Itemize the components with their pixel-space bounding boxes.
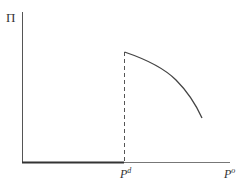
- y-axis-label: Π: [6, 10, 15, 26]
- x-tick-label-pd: Pd: [120, 166, 131, 182]
- profit-curve: [125, 52, 203, 118]
- po-sup: o: [231, 166, 235, 175]
- pd-sup: d: [127, 166, 131, 175]
- x-tick-label-po: Po: [224, 166, 235, 182]
- diagram-canvas: [0, 0, 245, 184]
